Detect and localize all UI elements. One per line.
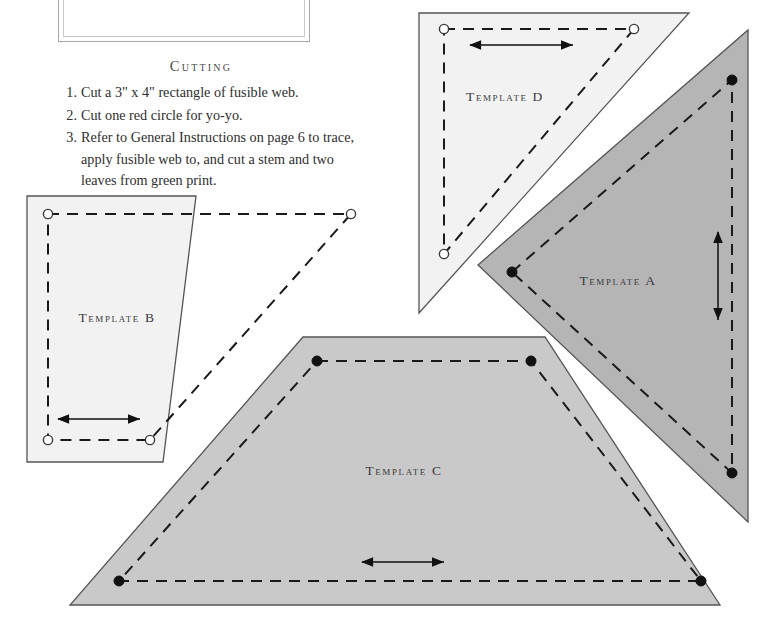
template-b-corner-marker <box>346 209 355 218</box>
cutting-step: Cut a 3" x 4" rectangle of fusible web. <box>62 82 362 104</box>
template-c-label: Template C <box>365 463 442 478</box>
template-d-corner-marker <box>439 24 448 33</box>
template-c-outline <box>70 337 720 605</box>
template-b-label: Template B <box>78 310 155 325</box>
template-c-corner-marker <box>526 356 536 366</box>
template-b-seam-line <box>48 214 351 440</box>
template-a-outline <box>478 30 748 522</box>
template-d-outline <box>419 13 689 313</box>
template-a-seam-line <box>512 80 732 473</box>
decorative-frame-box <box>58 0 310 42</box>
template-d-label: Template D <box>466 89 544 104</box>
template-d-corner-marker <box>629 24 638 33</box>
cutting-step: Refer to General Instructions on page 6 … <box>62 127 362 192</box>
template-a-corner-marker <box>727 468 737 478</box>
cutting-instructions-block: Cutting Cut a 3" x 4" rectangle of fusib… <box>40 58 362 193</box>
cutting-step: Cut one red circle for yo-yo. <box>62 105 362 127</box>
template-b: Template B <box>27 196 356 462</box>
template-b-outline <box>27 196 196 462</box>
template-a-corner-marker <box>727 75 737 85</box>
template-c: Template C <box>70 337 720 605</box>
template-b-corner-marker <box>145 435 154 444</box>
page-canvas: Cutting Cut a 3" x 4" rectangle of fusib… <box>0 0 771 637</box>
template-a: Template A <box>478 30 748 522</box>
template-c-seam-line <box>119 361 701 581</box>
cutting-heading: Cutting <box>40 58 362 75</box>
template-d-corner-marker <box>439 249 448 258</box>
template-a-corner-marker <box>507 267 517 277</box>
decorative-frame-inner <box>63 0 305 37</box>
template-c-corner-marker <box>114 576 124 586</box>
template-c-corner-marker <box>696 576 706 586</box>
template-a-label: Template A <box>579 273 656 288</box>
template-d-seam-line <box>444 29 634 254</box>
template-b-corner-marker <box>43 209 52 218</box>
template-c-corner-marker <box>312 356 322 366</box>
template-b-corner-marker <box>43 435 52 444</box>
template-d: Template D <box>419 13 689 313</box>
cutting-steps-list: Cut a 3" x 4" rectangle of fusible web.C… <box>40 82 362 192</box>
